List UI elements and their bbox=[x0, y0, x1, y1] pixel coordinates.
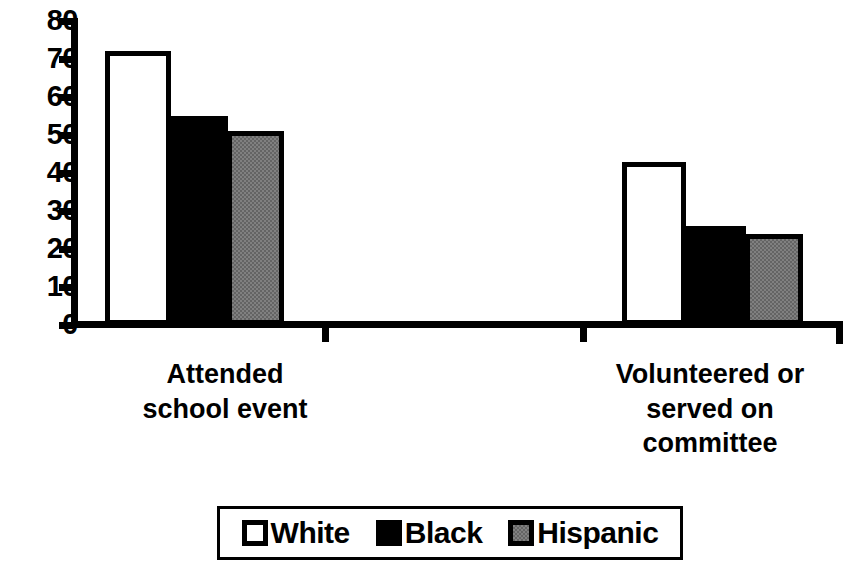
bar-gray-group2 bbox=[745, 234, 803, 325]
bar-black-group2 bbox=[685, 226, 746, 325]
legend-item-hispanic[interactable]: Hispanic bbox=[508, 518, 658, 548]
y-axis-tick-mark bbox=[59, 208, 73, 215]
bar-white-group2 bbox=[622, 162, 686, 325]
legend-label: White bbox=[271, 518, 350, 548]
bar-black-group1 bbox=[170, 116, 228, 325]
category-label-line: school event bbox=[60, 392, 390, 427]
bar-chart: 01020304050607080 Attendedschool eventVo… bbox=[0, 0, 850, 574]
chart-legend: WhiteBlackHispanic bbox=[217, 506, 683, 560]
y-axis-tick-mark bbox=[59, 94, 73, 101]
legend-item-white[interactable]: White bbox=[242, 518, 350, 548]
legend-label: Black bbox=[405, 518, 483, 548]
category-label-line: Attended bbox=[60, 357, 390, 392]
y-axis-tick-mark bbox=[59, 56, 73, 63]
legend-swatch-black bbox=[376, 520, 402, 546]
bar-white-group1 bbox=[105, 51, 171, 325]
category-label-line: served on bbox=[570, 392, 850, 427]
category-label-line: committee bbox=[570, 426, 850, 461]
x-axis-tick bbox=[580, 328, 587, 342]
y-axis-tick-mark bbox=[59, 246, 73, 253]
y-axis-tick-mark bbox=[59, 18, 73, 25]
legend-swatch-white bbox=[242, 520, 268, 546]
legend-item-black[interactable]: Black bbox=[376, 518, 483, 548]
x-axis-end-tick bbox=[836, 328, 843, 344]
category-label-line: Volunteered or bbox=[570, 357, 850, 392]
x-axis-tick bbox=[322, 328, 329, 342]
category-label-2: Volunteered orserved oncommittee bbox=[570, 357, 850, 461]
y-axis-tick-mark bbox=[59, 284, 73, 291]
category-label-1: Attendedschool event bbox=[60, 357, 390, 426]
legend-label: Hispanic bbox=[537, 518, 658, 548]
bar-gray-group1 bbox=[227, 131, 284, 325]
y-axis-tick-mark bbox=[59, 170, 73, 177]
y-axis-tick-mark bbox=[59, 132, 73, 139]
legend-swatch-gray bbox=[508, 520, 534, 546]
